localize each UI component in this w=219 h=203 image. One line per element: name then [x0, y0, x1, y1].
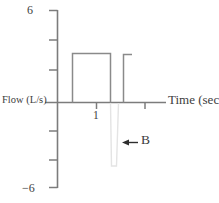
y-axis-title: Flow (L/s) [2, 95, 47, 106]
x-axis-group [45, 103, 166, 110]
y-axis-min-label: −6 [22, 182, 35, 194]
x-axis-title: Time (sec) [168, 93, 219, 106]
y-axis-max-label: 6 [27, 4, 33, 16]
expiratory-artifact-trace [111, 103, 119, 166]
flow-waveform-trace [73, 54, 133, 103]
y-axis-group [49, 10, 58, 188]
flow-time-chart: 6 −6 Flow (L/s) Time (sec) 1 B [0, 0, 219, 203]
x-axis-tick-label-1: 1 [93, 110, 99, 122]
annotation-b-arrow [122, 140, 138, 146]
annotation-b-text: B [141, 133, 150, 147]
